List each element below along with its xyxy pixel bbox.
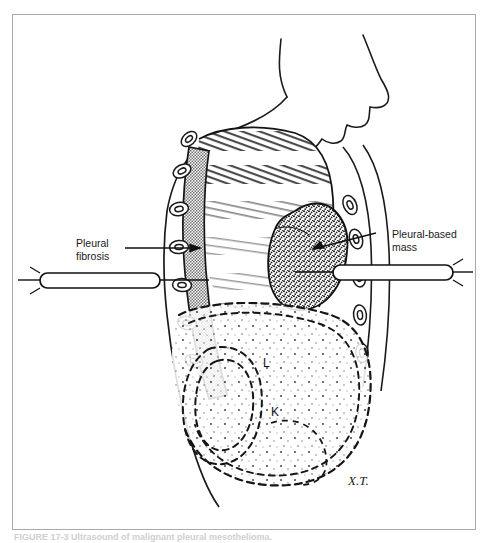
callout-pleural-based-mass: Pleural-based mass: [392, 228, 457, 254]
liver-marker: L: [263, 356, 270, 370]
abdominal-parenchyma: [163, 295, 383, 495]
figure-frame: L K: [12, 14, 476, 530]
artist-signature: X.T.: [347, 473, 369, 488]
callout-pleural-fibrosis: Pleural fibrosis: [76, 237, 109, 263]
anatomical-illustration: L K: [13, 15, 477, 531]
figure-caption: FIGURE 17-3 Ultrasound of malignant pleu…: [14, 532, 444, 543]
kidney-marker: K: [271, 405, 279, 419]
